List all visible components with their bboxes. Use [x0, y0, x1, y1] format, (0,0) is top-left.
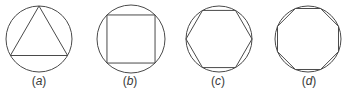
octagon-d	[278, 9, 339, 70]
label-a: (a)	[19, 74, 59, 88]
triangle-a	[10, 6, 67, 56]
panel-b	[97, 5, 165, 73]
panel-d	[275, 6, 341, 72]
label-c: (c)	[198, 74, 238, 88]
label-b-letter: b	[127, 74, 134, 88]
circle-d	[275, 6, 341, 72]
circle-c	[186, 6, 252, 72]
square-b	[107, 15, 155, 63]
label-d: (d)	[289, 74, 329, 88]
panel-a	[6, 6, 72, 72]
label-b: (b)	[110, 74, 150, 88]
hexagon-c	[186, 10, 252, 67]
panel-c	[186, 6, 252, 72]
circle-a	[6, 6, 72, 72]
label-a-letter: a	[36, 74, 43, 88]
label-c-letter: c	[215, 74, 221, 88]
label-d-letter: d	[306, 74, 313, 88]
